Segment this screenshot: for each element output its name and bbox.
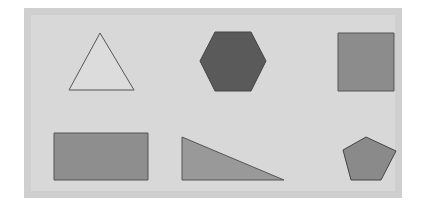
hexagon-shape	[200, 32, 266, 91]
shapes-canvas	[0, 0, 446, 212]
square-shape	[338, 33, 394, 91]
triangle-shape	[69, 33, 134, 90]
pentagon-shape	[343, 137, 396, 180]
rectangle-shape	[54, 133, 148, 180]
right-triangle-shape	[182, 137, 284, 180]
